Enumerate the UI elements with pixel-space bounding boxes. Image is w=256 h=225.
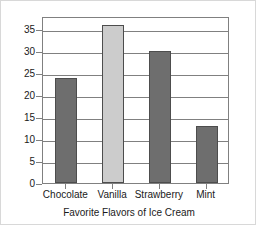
plot-area	[42, 17, 229, 184]
x-tick-mark	[159, 184, 160, 189]
x-tick-mark	[112, 184, 113, 189]
y-tick-label: 5	[29, 157, 35, 167]
bar-mint	[196, 126, 218, 183]
gridline	[43, 53, 228, 54]
bar-strawberry	[149, 51, 171, 183]
y-tick-label: 0	[29, 179, 35, 189]
y-tick-label: 30	[24, 47, 35, 57]
y-tick-label: 20	[24, 91, 35, 101]
y-tick-label: 25	[24, 69, 35, 79]
y-tick-mark	[36, 162, 42, 163]
gridline	[43, 75, 228, 76]
y-tick-mark	[36, 118, 42, 119]
bar-chart-figure: 05101520253035 ChocolateVanillaStrawberr…	[0, 0, 256, 225]
x-tick-label-chocolate: Chocolate	[43, 189, 88, 201]
bar-vanilla	[102, 25, 124, 183]
y-tick-label: 35	[24, 25, 35, 35]
y-tick-mark	[36, 140, 42, 141]
x-tick-mark	[65, 184, 66, 189]
gridline	[43, 31, 228, 32]
y-tick-label: 15	[24, 113, 35, 123]
y-axis: 05101520253035	[1, 17, 35, 184]
y-tick-mark	[36, 96, 42, 97]
y-tick-label: 10	[24, 135, 35, 145]
bar-chocolate	[55, 78, 77, 183]
x-tick-label-vanilla: Vanilla	[97, 189, 126, 201]
chart-title: Favorite Flavors of Ice Cream	[1, 207, 256, 219]
y-tick-mark	[36, 30, 42, 31]
x-tick-label-strawberry: Strawberry	[135, 189, 183, 201]
y-tick-mark	[36, 74, 42, 75]
y-tick-mark	[36, 52, 42, 53]
x-tick-label-mint: Mint	[196, 189, 215, 201]
x-tick-mark	[206, 184, 207, 189]
y-tick-mark	[36, 184, 42, 185]
